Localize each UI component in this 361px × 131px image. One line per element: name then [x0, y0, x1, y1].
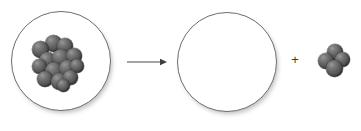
- nucleon-sphere: [326, 60, 343, 77]
- plus-sign: +: [288, 52, 302, 68]
- alpha-decay-diagram: +: [0, 0, 361, 131]
- daughter-nucleus-circle: [177, 12, 277, 112]
- arrow-head: [160, 59, 167, 65]
- nucleon-sphere: [57, 79, 70, 92]
- alpha-particle-cluster: [318, 44, 350, 78]
- parent-nucleon-cluster: [32, 35, 88, 91]
- reaction-arrow-icon: [127, 57, 167, 67]
